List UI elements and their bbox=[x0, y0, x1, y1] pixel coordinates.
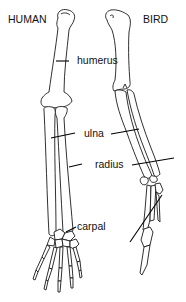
bird-digits bbox=[140, 183, 163, 275]
humerus-label: humerus bbox=[77, 54, 118, 66]
carpal-label: carpal bbox=[77, 220, 106, 232]
human-title: HUMAN bbox=[8, 13, 47, 25]
bird-humerus bbox=[106, 10, 131, 91]
human-ulna bbox=[44, 107, 56, 236]
human-arm bbox=[33, 9, 82, 292]
human-fingers bbox=[33, 245, 82, 292]
homologous-limbs-diagram: HUMAN BIRD bbox=[0, 0, 186, 302]
radius-label: radius bbox=[95, 158, 124, 170]
bird-title: BIRD bbox=[143, 13, 169, 25]
human-radius bbox=[55, 107, 73, 235]
ulna-label: ulna bbox=[84, 127, 104, 139]
